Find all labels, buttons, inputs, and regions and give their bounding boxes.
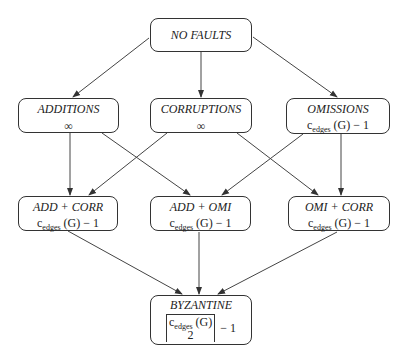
edge-nofaults-additions bbox=[73, 38, 149, 97]
formula-suffix: − 1 bbox=[220, 321, 236, 336]
edge-corruptions-omicorr bbox=[237, 133, 318, 195]
ceiling-formula: cedges (G) 2 − 1 bbox=[166, 314, 236, 342]
node-byzantine: BYZANTINE cedges (G) 2 − 1 bbox=[150, 295, 252, 345]
node-title: ADDITIONS bbox=[19, 102, 118, 116]
infinity-value: ∞ bbox=[151, 119, 251, 134]
node-title: BYZANTINE bbox=[151, 298, 251, 312]
formula-rest: (G) − 1 bbox=[332, 216, 370, 230]
formula-value: cedges (G) − 1 bbox=[287, 118, 389, 133]
node-omissions: OMISSIONS cedges (G) − 1 bbox=[286, 98, 390, 134]
formula-value: cedges (G) − 1 bbox=[151, 216, 250, 231]
infinity-value: ∞ bbox=[19, 119, 118, 134]
ceiling-brackets: cedges (G) 2 bbox=[166, 314, 215, 342]
node-no-faults: NO FAULTS bbox=[150, 18, 252, 52]
edge-additions-addomi bbox=[102, 133, 190, 195]
formula-value: cedges (G) − 1 bbox=[289, 216, 389, 231]
node-add-corr: ADD + CORR cedges (G) − 1 bbox=[18, 196, 118, 231]
edge-omissions-addomi bbox=[222, 134, 303, 195]
formula-value: cedges (G) − 1 bbox=[19, 216, 117, 231]
node-title: OMI + CORR bbox=[289, 200, 389, 214]
node-omi-corr: OMI + CORR cedges (G) − 1 bbox=[288, 196, 390, 231]
formula-subscript: edges bbox=[175, 223, 193, 232]
formula-rest: (G) bbox=[193, 315, 213, 329]
formula-rest: (G) − 1 bbox=[61, 216, 99, 230]
node-corruptions: CORRUPTIONS ∞ bbox=[150, 98, 252, 133]
edge-omicorr-byzantine bbox=[218, 232, 337, 294]
node-add-omi: ADD + OMI cedges (G) − 1 bbox=[150, 196, 251, 231]
formula-subscript: edges bbox=[312, 125, 330, 134]
edge-corruptions-addcorr bbox=[89, 133, 167, 195]
formula-rest: (G) − 1 bbox=[331, 118, 369, 132]
edge-nofaults-omissions bbox=[253, 37, 337, 97]
node-additions: ADDITIONS ∞ bbox=[18, 98, 119, 133]
node-title: OMISSIONS bbox=[287, 102, 389, 116]
node-title: CORRUPTIONS bbox=[151, 102, 251, 116]
node-title: NO FAULTS bbox=[151, 28, 251, 42]
node-title: ADD + CORR bbox=[19, 200, 117, 214]
node-title: ADD + OMI bbox=[151, 200, 250, 214]
formula-subscript: edges bbox=[42, 223, 60, 232]
edge-addcorr-byzantine bbox=[68, 231, 182, 294]
formula-subscript: edges bbox=[313, 223, 331, 232]
formula-rest: (G) − 1 bbox=[193, 216, 231, 230]
